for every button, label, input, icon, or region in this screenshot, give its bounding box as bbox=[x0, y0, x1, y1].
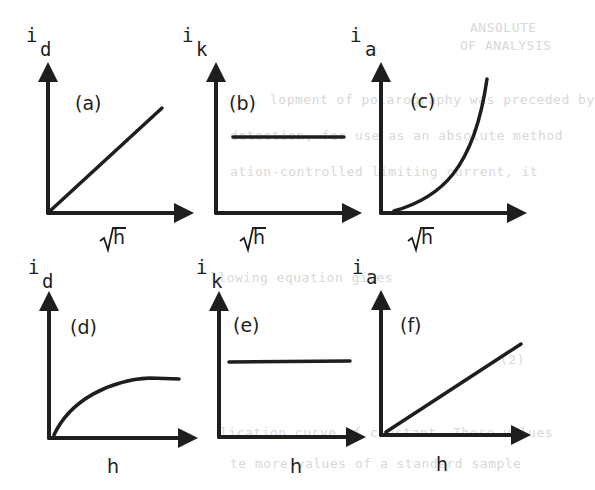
panel-d-xlabel: h bbox=[107, 455, 119, 477]
panel-c-xlabel-h: h bbox=[421, 226, 433, 248]
panel-a-curve bbox=[50, 108, 162, 211]
panel-e-ysub: k bbox=[211, 270, 222, 292]
panel-c-axes bbox=[381, 78, 511, 213]
panel-a-tag: (a) bbox=[75, 92, 101, 114]
panel-b-ylabel: i bbox=[182, 24, 193, 46]
panel-f-curve bbox=[386, 344, 521, 432]
panel-d-curve bbox=[54, 378, 179, 435]
panel-d-ysub: d bbox=[42, 270, 53, 292]
panel-c-tag: (c) bbox=[410, 90, 435, 112]
panel-c-ysub: a bbox=[365, 38, 376, 60]
panel-b-ysub: k bbox=[196, 38, 207, 60]
panel-f-ysub: a bbox=[366, 266, 377, 288]
panel-f-xlabel: h bbox=[436, 453, 448, 475]
sqrt-symbols bbox=[100, 228, 434, 250]
panel-a-ylabel: i bbox=[26, 24, 37, 46]
panel-b-xlabel-h: h bbox=[253, 226, 265, 248]
panel-a-ysub: d bbox=[40, 38, 51, 60]
panel-e-ylabel: i bbox=[196, 256, 207, 278]
panel-d-ylabel: i bbox=[28, 256, 39, 278]
panel-b-tag: (b) bbox=[229, 92, 256, 114]
panel-d-tag: (d) bbox=[70, 316, 97, 338]
panel-e-xlabel: h bbox=[290, 455, 302, 477]
panel-e-tag: (e) bbox=[233, 314, 260, 336]
panel-f-tag: (f) bbox=[400, 314, 422, 336]
panel-a-xlabel-h: h bbox=[113, 226, 125, 248]
panel-c-curve bbox=[394, 79, 487, 211]
panel-d-axes bbox=[49, 307, 182, 438]
panel-c-ylabel: i bbox=[350, 24, 361, 46]
panel-f-ylabel: i bbox=[352, 256, 363, 278]
panel-e-curve bbox=[229, 361, 350, 362]
